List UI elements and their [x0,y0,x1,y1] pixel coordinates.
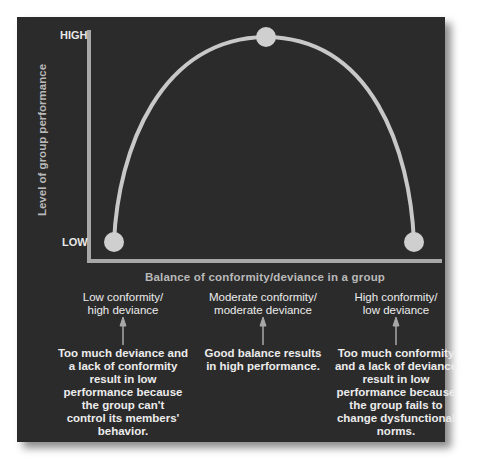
y-axis-title: Level of group performance [36,64,48,216]
arrow-up-icon [393,317,399,345]
annotation-low-conformity: Too much deviance and a lack of conformi… [48,347,198,438]
arrow-up-icon [260,317,266,345]
data-point-high-conformity [404,232,424,252]
y-tick-low: LOW [62,236,88,248]
x-axis-title: Balance of conformity/deviance in a grou… [145,271,385,283]
data-point-moderate [256,27,276,47]
category-label-moderate: Moderate conformity/ moderate deviance [188,291,338,317]
annotation-high-conformity: Too much conformity and a lack of devian… [321,347,471,438]
performance-curve [114,37,414,242]
arrow-up-icon [120,317,126,345]
data-point-low-conformity [104,232,124,252]
category-label-high-conformity: High conformity/ low deviance [321,291,471,317]
category-label-low-conformity: Low conformity/ high deviance [48,291,198,317]
y-tick-high: HIGH [60,29,88,41]
annotation-moderate: Good balance results in high performance… [188,347,338,373]
